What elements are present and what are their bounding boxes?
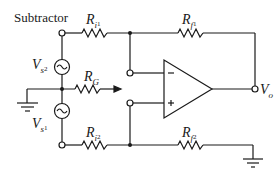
terminal-bottom-left (59, 142, 65, 148)
resistor-rf1 (178, 29, 203, 37)
circuit-diagram (0, 0, 277, 176)
label-rg: RG (84, 68, 99, 84)
opamp (164, 60, 212, 118)
terminal-top-left (59, 30, 65, 36)
terminal-output (252, 86, 258, 92)
label-vs1: Vs1 (32, 115, 48, 131)
label-rf1: Rf1 (182, 11, 197, 27)
label-vo: Vo (260, 81, 273, 97)
label-rf2: Rf2 (182, 124, 197, 140)
terminal-noninverting (127, 100, 133, 106)
label-ri1: Ri1 (86, 11, 101, 27)
label-ri2: Ri2 (86, 124, 101, 140)
diagram-title: Subtractor (14, 11, 68, 24)
terminal-inverting (127, 70, 133, 76)
resistor-ri1 (82, 29, 107, 37)
label-vs2: Vs2 (32, 56, 48, 72)
